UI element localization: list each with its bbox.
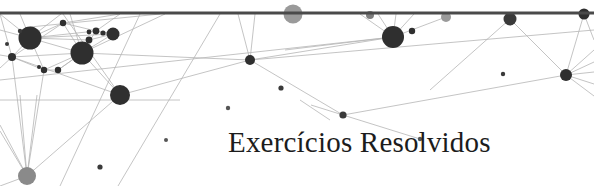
network-graphic xyxy=(0,0,594,186)
network-node xyxy=(86,37,93,44)
network-edge xyxy=(0,37,393,80)
network-node xyxy=(339,111,346,118)
network-edge xyxy=(12,57,27,176)
network-node xyxy=(245,55,255,65)
network-node xyxy=(37,65,41,69)
network-node xyxy=(501,72,505,76)
network-node xyxy=(87,30,92,35)
network-edge xyxy=(63,23,96,31)
network-node xyxy=(8,53,16,61)
network-node xyxy=(18,167,36,185)
network-node xyxy=(5,42,9,46)
exercises-banner: Exercícios Resolvidos xyxy=(0,0,594,186)
network-node xyxy=(19,27,42,50)
network-node xyxy=(110,85,130,105)
network-edge xyxy=(311,105,343,115)
network-edge xyxy=(343,115,420,139)
network-edge xyxy=(20,95,27,176)
network-edge xyxy=(27,95,120,176)
network-edge xyxy=(250,30,594,60)
network-edge xyxy=(30,14,160,27)
network-edge xyxy=(82,53,250,60)
network-node xyxy=(41,67,47,73)
network-edge xyxy=(430,19,510,90)
network-edge xyxy=(250,14,255,60)
network-edge xyxy=(250,60,343,115)
network-edge xyxy=(27,95,37,176)
network-node xyxy=(93,28,100,35)
network-node xyxy=(18,29,22,33)
network-nodes xyxy=(5,5,590,186)
network-edge xyxy=(0,14,12,57)
network-node xyxy=(278,85,283,90)
network-node xyxy=(409,28,415,34)
network-node xyxy=(226,106,230,110)
network-edge xyxy=(250,37,393,60)
network-node xyxy=(97,164,102,169)
network-node xyxy=(55,67,61,73)
network-edge xyxy=(96,14,120,31)
network-node xyxy=(100,30,105,35)
network-edge xyxy=(510,19,566,75)
network-node xyxy=(164,138,168,142)
network-node xyxy=(107,28,120,41)
network-node xyxy=(60,20,66,26)
network-edge xyxy=(566,14,584,75)
network-edge xyxy=(343,75,566,115)
network-node xyxy=(560,69,572,81)
network-edge xyxy=(27,70,44,176)
network-edge xyxy=(300,100,330,120)
network-node xyxy=(418,137,422,141)
network-node xyxy=(382,26,404,48)
network-node xyxy=(71,42,94,65)
network-edge xyxy=(120,60,250,95)
network-edge xyxy=(12,57,120,95)
